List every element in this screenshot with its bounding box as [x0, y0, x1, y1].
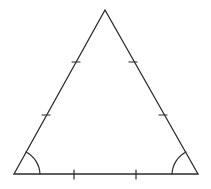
angle-arc-base-right: [172, 152, 186, 174]
triangle-outline: [14, 10, 198, 174]
angle-arc-base-left: [26, 152, 40, 174]
triangle-diagram: [0, 0, 211, 189]
diagram-canvas: [0, 0, 211, 189]
